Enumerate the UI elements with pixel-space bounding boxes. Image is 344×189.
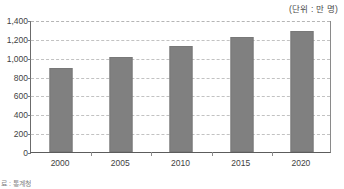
bar-chart-figure: (단위 : 만 명) 료 : 통계청 02004006008001,0001,2… [0, 0, 344, 189]
source-note: 료 : 통계청 [1, 178, 31, 187]
x-axis-tick-label: 2005 [111, 158, 130, 168]
y-axis-tick-label: 200 [2, 129, 28, 139]
y-axis-tick-label: 1,000 [2, 54, 28, 64]
unit-caption: (단위 : 만 명) [289, 2, 338, 14]
bar-slot [151, 21, 211, 152]
bar[interactable] [290, 31, 313, 152]
bar[interactable] [50, 68, 73, 152]
bar-slot [91, 21, 151, 152]
y-axis-tick-mark [28, 153, 31, 154]
y-axis-tick-label: 1,400 [2, 16, 28, 26]
plot-area [30, 21, 331, 153]
y-axis-tick-label: 400 [2, 110, 28, 120]
y-axis-tick-label: 1,200 [2, 35, 28, 45]
bar[interactable] [110, 57, 133, 152]
bar-slot [31, 21, 91, 152]
x-axis-tick-label: 2000 [51, 158, 70, 168]
x-axis-tick-label: 2020 [291, 158, 310, 168]
x-axis-tick-mark [272, 152, 273, 156]
bar-slot [272, 21, 332, 152]
bar[interactable] [170, 46, 193, 152]
y-axis-tick-label: 800 [2, 73, 28, 83]
x-axis-tick-mark [91, 152, 92, 156]
bar[interactable] [230, 37, 253, 152]
x-axis-tick-label: 2010 [171, 158, 190, 168]
bar-slot [212, 21, 272, 152]
x-axis-tick-mark [151, 152, 152, 156]
y-axis-tick-label: 0 [2, 148, 28, 158]
y-axis-tick-label: 600 [2, 91, 28, 101]
x-axis-tick-mark [212, 152, 213, 156]
x-axis-tick-label: 2015 [231, 158, 250, 168]
